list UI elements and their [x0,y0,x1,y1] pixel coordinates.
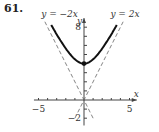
y-tick-label: −2 [68,113,81,123]
asymptote-label: y = 2x [109,9,139,19]
x-tick-label: 5 [127,104,133,114]
asymptote-line [75,22,123,118]
plot: −558−2xyy = −2xy = 2x [0,0,159,132]
vertex-point [82,61,87,66]
asymptote-label: y = −2x [40,9,78,19]
x-axis-label: x [134,89,139,99]
y-axis-arrow [82,18,86,23]
x-tick-label: −5 [32,104,46,114]
figure: 61. −558−2xyy = −2xy = 2x [0,0,159,132]
problem-number: 61. [4,2,23,15]
